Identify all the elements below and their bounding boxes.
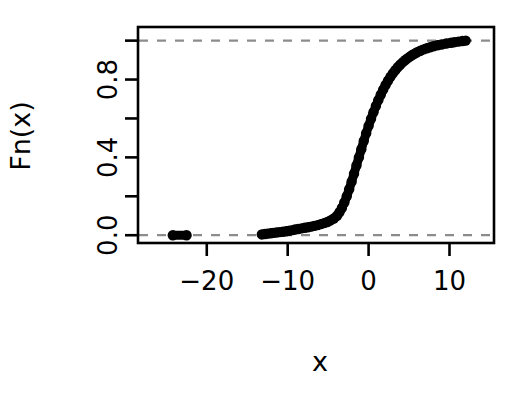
ecdf-point	[168, 230, 178, 240]
ecdf-point	[460, 35, 470, 45]
ecdf-point	[181, 230, 191, 240]
x-axis-tick-label: 10	[433, 266, 466, 296]
ecdf-plot-figure: −20−10010 0.00.40.8 x Fn(x)	[0, 0, 526, 400]
plot-canvas: −20−10010 0.00.40.8 x Fn(x)	[0, 0, 526, 400]
x-axis-tick-label: −10	[260, 266, 315, 296]
y-axis-tick-label: 0.0	[93, 215, 123, 256]
y-axis-tick-label: 0.8	[93, 59, 123, 100]
y-axis-tick-label: 0.4	[93, 137, 123, 178]
figure-background	[0, 0, 526, 400]
x-axis-tick-label: −20	[179, 266, 234, 296]
x-axis-title: x	[312, 346, 328, 377]
x-axis-tick-label: 0	[360, 266, 377, 296]
y-axis-title: Fn(x)	[5, 101, 36, 171]
y-axis-tick-labels: 0.00.40.8	[93, 59, 123, 256]
